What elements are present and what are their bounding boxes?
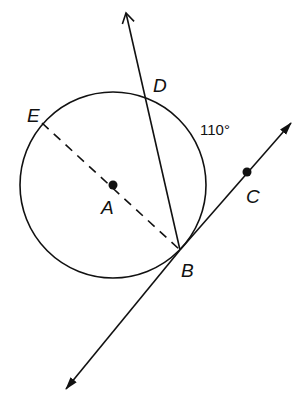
label-C: C [246, 186, 260, 207]
label-E: E [27, 105, 40, 126]
geometry-diagram: A B C D E 110° [0, 0, 305, 396]
point-A-dot [109, 181, 118, 190]
label-D: D [153, 75, 167, 96]
tangent-line-B-down [66, 250, 180, 389]
label-A: A [100, 197, 114, 218]
diagram-svg: A B C D E 110° [0, 0, 305, 396]
arc-measure-label: 110° [200, 121, 230, 138]
point-C-dot [243, 168, 252, 177]
tangent-line-BC [180, 123, 291, 250]
label-B: B [181, 260, 194, 281]
ray-BD [126, 13, 180, 250]
